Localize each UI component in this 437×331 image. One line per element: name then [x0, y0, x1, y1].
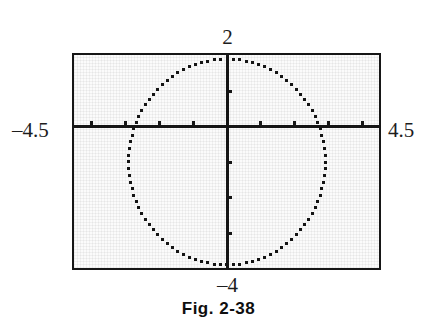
window-label-ymax: 2	[0, 27, 437, 48]
window-label-ymin: –4	[0, 275, 437, 296]
figure-root: 2 –4.5 4.5 –4 Fig. 2-38	[0, 0, 437, 331]
axes-group	[74, 55, 379, 268]
plot-canvas	[74, 55, 379, 268]
plot-frame	[72, 53, 381, 270]
window-label-xmin: –4.5	[12, 120, 49, 141]
figure-caption: Fig. 2-38	[0, 299, 437, 319]
window-label-xmax: 4.5	[388, 120, 414, 141]
